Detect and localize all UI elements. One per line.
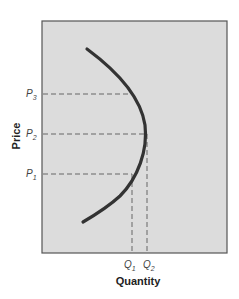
x-axis-label: Quantity bbox=[116, 275, 161, 287]
tick-q2: Q2 bbox=[143, 259, 155, 272]
tick-p1: P1 bbox=[26, 168, 37, 181]
chart: P3 P2 P1 Q1 Q2 Quantity Price bbox=[0, 0, 239, 299]
tick-p3: P3 bbox=[26, 88, 37, 101]
tick-p2: P2 bbox=[26, 128, 37, 141]
tick-q1: Q1 bbox=[124, 259, 136, 272]
plot-area bbox=[42, 21, 227, 253]
y-axis-label: Price bbox=[10, 123, 22, 150]
